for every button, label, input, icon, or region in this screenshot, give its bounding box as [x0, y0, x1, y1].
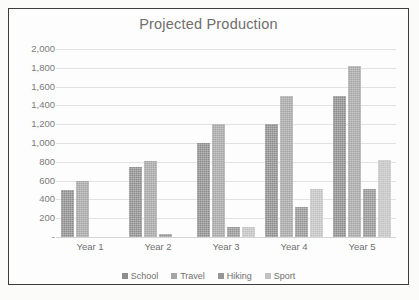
bar[interactable]	[310, 189, 323, 237]
bar[interactable]	[265, 124, 278, 237]
legend-item-hiking[interactable]: Hiking	[218, 271, 252, 281]
legend-swatch-icon	[171, 273, 177, 279]
x-axis-tick-label: Year 1	[56, 241, 124, 252]
legend-label: Sport	[274, 271, 296, 281]
legend-swatch-icon	[265, 273, 271, 279]
y-axis-tick-label: 1,800	[31, 63, 55, 73]
legend-item-sport[interactable]: Sport	[265, 271, 296, 281]
y-axis-tick-label: 1,000	[31, 138, 55, 148]
legend-label: Travel	[180, 271, 205, 281]
y-axis-tick-label: 1,600	[31, 82, 55, 92]
bar[interactable]	[144, 161, 157, 237]
bar[interactable]	[378, 160, 391, 237]
x-axis: Year 1Year 2Year 3Year 4Year 5	[56, 241, 396, 252]
y-axis-tick-label: 600	[39, 176, 55, 186]
x-axis-tick-label: Year 2	[124, 241, 192, 252]
bar-group	[56, 49, 124, 237]
y-axis: 2,0001,8001,6001,4001,2001,0008006004002…	[15, 49, 55, 237]
bar[interactable]	[159, 234, 172, 237]
bar[interactable]	[212, 124, 225, 237]
bar[interactable]	[363, 189, 376, 237]
y-axis-tick-label: 1,400	[31, 101, 55, 111]
legend-label: School	[131, 271, 159, 281]
bar-groups	[56, 49, 396, 237]
y-axis-tick-label: 400	[39, 195, 55, 205]
legend-swatch-icon	[218, 273, 224, 279]
bar[interactable]	[280, 96, 293, 237]
bar[interactable]	[227, 227, 240, 237]
bar[interactable]	[129, 167, 142, 238]
bar[interactable]	[295, 207, 308, 237]
y-axis-tick-label: 200	[39, 213, 55, 223]
y-axis-tick-label: 800	[39, 157, 55, 167]
bar[interactable]	[348, 66, 361, 237]
bar-group	[260, 49, 328, 237]
bar-group	[328, 49, 396, 237]
plot-area	[56, 49, 396, 237]
legend-item-travel[interactable]: Travel	[171, 271, 205, 281]
y-axis-tick-label: 1,200	[31, 119, 55, 129]
bar[interactable]	[242, 227, 255, 237]
chart-container[interactable]: Projected Production 2,0001,8001,6001,40…	[8, 8, 409, 285]
y-axis-tick-label: -	[52, 232, 55, 242]
bar[interactable]	[76, 181, 89, 237]
bar-group	[192, 49, 260, 237]
legend-item-school[interactable]: School	[122, 271, 159, 281]
legend-label: Hiking	[227, 271, 252, 281]
chart-legend[interactable]: SchoolTravelHikingSport	[9, 271, 408, 281]
x-axis-tick-label: Year 3	[192, 241, 260, 252]
chart-title: Projected Production	[9, 16, 408, 32]
legend-swatch-icon	[122, 273, 128, 279]
x-axis-tick-label: Year 4	[260, 241, 328, 252]
bar-group	[124, 49, 192, 237]
bar[interactable]	[197, 143, 210, 237]
bar[interactable]	[61, 190, 74, 237]
x-axis-tick-label: Year 5	[328, 241, 396, 252]
y-axis-tick-label: 2,000	[31, 44, 55, 54]
axis-baseline	[56, 237, 396, 238]
bar[interactable]	[333, 96, 346, 237]
